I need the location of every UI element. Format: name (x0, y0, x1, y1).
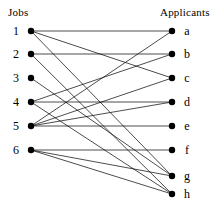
job-node-label-2: 2 (13, 47, 19, 62)
edge-layer (31, 31, 172, 194)
graph-node-1[interactable] (28, 28, 34, 34)
graph-edge (31, 102, 172, 194)
graph-node-h[interactable] (169, 191, 175, 197)
graph-node-d[interactable] (169, 99, 175, 105)
job-node-label-1: 1 (13, 24, 19, 39)
graph-node-c[interactable] (169, 75, 175, 81)
graph-node-2[interactable] (28, 51, 34, 57)
applicant-node-label-a: a (184, 24, 189, 39)
graph-node-3[interactable] (28, 75, 34, 81)
applicant-node-label-h: h (184, 187, 190, 202)
graph-node-e[interactable] (169, 123, 175, 129)
graph-node-6[interactable] (28, 147, 34, 153)
graph-edge (31, 78, 172, 176)
applicant-node-label-g: g (184, 169, 190, 184)
applicant-node-label-e: e (184, 119, 189, 134)
graph-edge (31, 54, 172, 102)
graph-node-g[interactable] (169, 173, 175, 179)
job-node-label-3: 3 (13, 71, 19, 86)
job-node-label-5: 5 (13, 119, 19, 134)
graph-edge (31, 31, 172, 78)
job-node-label-4: 4 (13, 95, 19, 110)
graph-edge (31, 102, 172, 126)
graph-node-b[interactable] (169, 51, 175, 57)
graph-node-5[interactable] (28, 123, 34, 129)
job-node-label-6: 6 (13, 143, 19, 158)
graph-edge (31, 54, 172, 194)
applicant-node-label-d: d (184, 95, 190, 110)
bipartite-graph: Jobs Applicants 123456abcdefgh (0, 0, 215, 212)
applicant-node-label-f: f (185, 143, 189, 158)
applicant-node-label-c: c (184, 71, 189, 86)
applicant-node-label-b: b (184, 47, 190, 62)
graph-node-4[interactable] (28, 99, 34, 105)
graph-node-f[interactable] (169, 147, 175, 153)
graph-edge (31, 31, 172, 126)
graph-canvas (0, 0, 215, 212)
graph-node-a[interactable] (169, 28, 175, 34)
